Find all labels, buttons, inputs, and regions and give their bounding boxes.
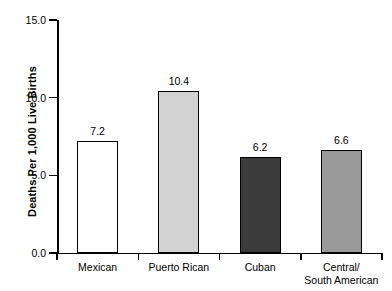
bar-value-label: 10.4 <box>144 76 214 87</box>
y-axis-tick-label: 10.0 <box>0 93 46 104</box>
y-axis-tick <box>49 175 57 177</box>
bar-puerto-rican <box>158 91 199 253</box>
x-axis-tick <box>138 253 140 260</box>
bar-cuban <box>240 157 281 253</box>
x-axis-tick <box>56 253 58 260</box>
bar-chart: Deaths Per 1,000 Live Births 15.0 10.0 5… <box>0 0 392 291</box>
y-axis-tick <box>49 19 57 21</box>
x-axis-category-label: Central/ South American <box>286 261 392 286</box>
bar-central-south-american <box>321 150 362 253</box>
bar-value-label: 7.2 <box>63 126 133 137</box>
category-label-line: Central/ <box>286 261 392 274</box>
y-axis-line <box>57 20 59 254</box>
y-axis-tick-label: 5.0 <box>0 170 46 181</box>
y-axis-tick <box>49 97 57 99</box>
category-label-line: South American <box>286 274 392 287</box>
x-axis-tick <box>300 253 302 260</box>
y-axis-title: Deaths Per 1,000 Live Births <box>27 47 38 237</box>
y-axis-tick-label: 0.0 <box>0 248 46 259</box>
bar-mexican <box>77 141 118 253</box>
x-axis-tick <box>219 253 221 260</box>
y-axis-tick-label: 15.0 <box>0 15 46 26</box>
bar-value-label: 6.2 <box>225 142 295 153</box>
bar-value-label: 6.6 <box>306 135 376 146</box>
x-axis-tick <box>381 253 383 260</box>
